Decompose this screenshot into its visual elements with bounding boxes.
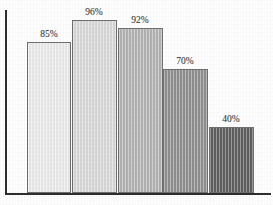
bar-2 (72, 20, 117, 193)
bar-1 (27, 42, 71, 193)
x-axis-line (5, 193, 271, 195)
bar-3 (118, 28, 163, 193)
bar-value-label-3: 92% (131, 15, 149, 26)
bar-4 (163, 69, 208, 193)
bar-5 (209, 127, 254, 193)
bar-value-label-5: 40% (222, 114, 240, 125)
bar-value-label-2: 96% (85, 7, 103, 18)
bar-value-label-1: 85% (40, 29, 58, 40)
y-axis-line (5, 10, 7, 195)
bar-value-label-4: 70% (176, 56, 194, 67)
bar-chart: 85%96%92%70%40% (0, 0, 273, 205)
